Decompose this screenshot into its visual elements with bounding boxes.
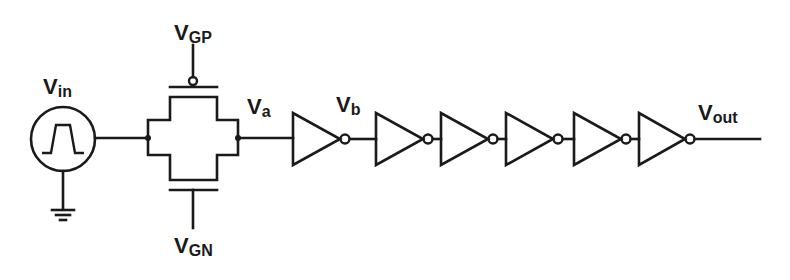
inverter-3 [441, 113, 498, 165]
junction-dot-left [145, 135, 151, 141]
ground-symbol [52, 171, 74, 220]
circuit-diagram: Vin VGP VGN Va Vb Vout [0, 0, 790, 280]
label-vin: Vin [43, 74, 72, 100]
inverter-5 [574, 113, 631, 165]
inverter-2 [376, 113, 433, 165]
label-vgp: VGP [174, 20, 212, 46]
pulse-waveform-icon [42, 125, 84, 153]
pulse-source [31, 107, 95, 171]
inverter-chain [293, 113, 760, 165]
label-va: Va [247, 94, 271, 120]
label-vout: Vout [698, 100, 738, 126]
inverter-6 [639, 113, 695, 165]
label-vgn: VGN [174, 233, 213, 259]
transmission-gate [145, 45, 241, 228]
label-vb: Vb [336, 92, 361, 118]
inverter-1 [293, 113, 350, 165]
inverter-4 [506, 113, 563, 165]
